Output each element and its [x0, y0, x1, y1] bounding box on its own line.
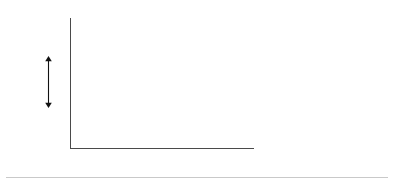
chart-root — [0, 0, 394, 185]
y-axis-range-arrow — [44, 56, 53, 108]
y-axis-title — [0, 1, 40, 164]
series-layer — [70, 18, 370, 168]
plot-area — [70, 18, 254, 149]
y-axis-title-group — [0, 0, 40, 163]
footer-divider — [6, 177, 388, 178]
legend — [276, 16, 394, 20]
